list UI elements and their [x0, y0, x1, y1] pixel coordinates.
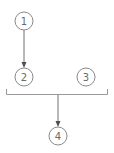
edge-1-to-2 — [22, 30, 27, 68]
arrowhead-icon — [56, 121, 61, 127]
edge-group-to-4 — [56, 95, 61, 127]
arrowhead-icon — [22, 62, 27, 68]
node-1: 1 — [15, 12, 33, 30]
node-3-label: 3 — [83, 72, 89, 83]
group-bracket-2-3 — [7, 89, 108, 95]
node-1-label: 1 — [21, 16, 27, 27]
flow-diagram: 1 2 3 4 — [0, 0, 114, 153]
node-4: 4 — [49, 127, 67, 145]
node-2-label: 2 — [21, 72, 27, 83]
node-3: 3 — [77, 68, 95, 86]
node-2: 2 — [15, 68, 33, 86]
node-4-label: 4 — [55, 131, 61, 142]
